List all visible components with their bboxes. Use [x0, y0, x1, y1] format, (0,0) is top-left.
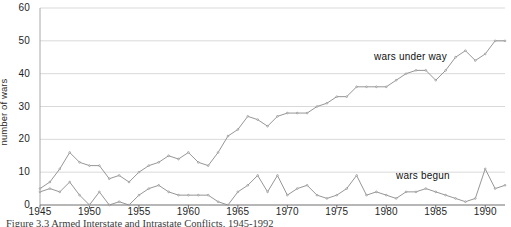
data-point [465, 50, 467, 52]
figure-caption: Figure 3.3 Armed Interstate and Intrasta… [6, 218, 506, 227]
data-point [148, 165, 150, 167]
data-point [385, 86, 387, 88]
data-point [138, 171, 140, 173]
data-point [128, 181, 130, 183]
data-point [168, 191, 170, 193]
data-point [366, 194, 368, 196]
data-point [316, 194, 318, 196]
x-tick-label: 1945 [20, 206, 60, 217]
data-point [415, 191, 417, 193]
x-tick-label: 1950 [69, 206, 109, 217]
x-tick-label: 1990 [465, 206, 505, 217]
data-point [257, 119, 259, 121]
data-point [425, 188, 427, 190]
data-point [286, 112, 288, 114]
data-point [435, 191, 437, 193]
data-point [267, 191, 269, 193]
data-point [296, 188, 298, 190]
x-tick-label: 1965 [218, 206, 258, 217]
data-point [247, 184, 249, 186]
data-point [49, 181, 51, 183]
data-point [207, 194, 209, 196]
data-point [118, 175, 120, 177]
data-point [405, 73, 407, 75]
data-point [108, 178, 110, 180]
data-point [346, 188, 348, 190]
data-point [405, 191, 407, 193]
data-point [395, 198, 397, 200]
data-point [326, 198, 328, 200]
data-point [138, 194, 140, 196]
y-tick-label: 10 [8, 166, 30, 177]
data-point [435, 79, 437, 81]
data-point [158, 184, 160, 186]
data-point [59, 191, 61, 193]
data-point [356, 175, 358, 177]
data-point [494, 40, 496, 42]
x-tick-label: 1980 [366, 206, 406, 217]
data-point [217, 152, 219, 154]
data-point [336, 194, 338, 196]
data-point [445, 194, 447, 196]
data-point [197, 161, 199, 163]
data-point [366, 86, 368, 88]
chart-plot-area [0, 0, 511, 227]
data-point [79, 161, 81, 163]
data-point [257, 175, 259, 177]
data-point [336, 96, 338, 98]
data-point [376, 86, 378, 88]
y-tick-label: 20 [8, 133, 30, 144]
data-point [99, 191, 101, 193]
data-point [207, 165, 209, 167]
data-point [474, 60, 476, 62]
data-point [296, 112, 298, 114]
x-tick-label: 1970 [267, 206, 307, 217]
data-point [237, 129, 239, 131]
y-tick-label: 50 [8, 35, 30, 46]
data-point [227, 135, 229, 137]
data-point [455, 56, 457, 58]
y-tick-label: 40 [8, 68, 30, 79]
data-point [445, 70, 447, 72]
data-point [415, 70, 417, 72]
x-tick-label: 1975 [317, 206, 357, 217]
data-point [286, 194, 288, 196]
data-point [148, 188, 150, 190]
data-point [306, 184, 308, 186]
data-point [178, 194, 180, 196]
data-point [267, 125, 269, 127]
data-point [465, 201, 467, 203]
series-line-wars-under-way [40, 41, 505, 189]
y-tick-label: 30 [8, 101, 30, 112]
data-point [326, 102, 328, 104]
data-point [237, 191, 239, 193]
data-point [39, 191, 41, 193]
data-point [376, 191, 378, 193]
data-point [39, 188, 41, 190]
data-point [385, 194, 387, 196]
data-point [484, 168, 486, 170]
data-point [306, 112, 308, 114]
data-point [188, 152, 190, 154]
data-point [277, 116, 279, 118]
data-point [277, 175, 279, 177]
series-label-wars-begun: wars begun [396, 170, 450, 181]
x-tick-label: 1985 [416, 206, 456, 217]
x-tick-label: 1960 [168, 206, 208, 217]
data-point [504, 184, 506, 186]
data-point [79, 194, 81, 196]
data-point [69, 152, 71, 154]
data-point [484, 53, 486, 55]
data-point [425, 70, 427, 72]
data-point [197, 194, 199, 196]
data-point [188, 194, 190, 196]
data-point [474, 198, 476, 200]
y-tick-label: 60 [8, 2, 30, 13]
data-point [178, 158, 180, 160]
data-point [504, 40, 506, 42]
data-point [346, 96, 348, 98]
x-tick-label: 1955 [119, 206, 159, 217]
data-point [217, 201, 219, 203]
data-point [455, 198, 457, 200]
data-point [395, 79, 397, 81]
